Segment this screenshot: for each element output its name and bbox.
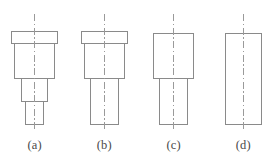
figure-c-outline: [139, 0, 209, 140]
figure-c: (c): [139, 0, 209, 163]
figure-a: (a): [0, 0, 70, 163]
figure-b: (b): [70, 0, 140, 163]
figure-a-outline: [0, 0, 70, 140]
figure-a-label: (a): [0, 138, 70, 152]
figure-d-outline: [209, 0, 279, 140]
technical-drawing-screenshot: (a)(b)(c)(d): [0, 0, 278, 163]
figure-c-label: (c): [139, 138, 209, 152]
figure-b-label: (b): [70, 138, 140, 152]
figure-d: (d): [209, 0, 279, 163]
figure-b-outline: [70, 0, 140, 140]
figure-d-label: (d): [209, 138, 279, 152]
figure-row: (a)(b)(c)(d): [0, 0, 278, 163]
